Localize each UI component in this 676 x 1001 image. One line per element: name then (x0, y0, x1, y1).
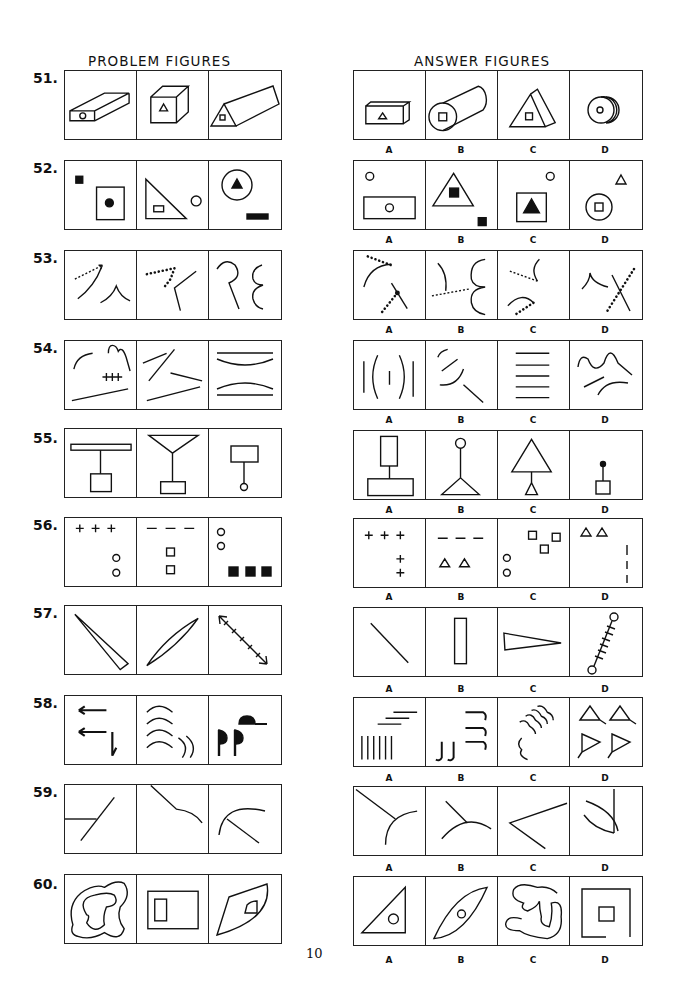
question-number: 55. (33, 430, 58, 446)
answer-figure-b[interactable] (426, 71, 498, 139)
answer-row-52 (353, 160, 643, 230)
problem-figure (65, 696, 137, 764)
problem-figure (65, 429, 137, 497)
answer-figure-a[interactable] (354, 71, 426, 139)
problem-row-57 (64, 605, 282, 675)
answer-figure-d[interactable] (570, 877, 642, 945)
answer-figure-c[interactable] (498, 877, 570, 945)
answer-figure-a[interactable] (354, 787, 426, 855)
answer-row-59 (353, 786, 643, 856)
question-number: 56. (33, 517, 58, 533)
problem-figure (209, 518, 281, 586)
question-number: 51. (33, 70, 58, 86)
problem-figure (209, 875, 281, 943)
answer-row-56 (353, 518, 643, 588)
question-number: 59. (33, 784, 58, 800)
answer-row-51 (353, 70, 643, 140)
answer-figure-d[interactable] (570, 608, 642, 676)
answer-figure-b[interactable] (426, 608, 498, 676)
answer-row-53 (353, 250, 643, 320)
answer-figure-d[interactable] (570, 519, 642, 587)
answer-figure-b[interactable] (426, 341, 498, 409)
answer-labels: ABCD (353, 955, 641, 965)
answer-figure-c[interactable] (498, 341, 570, 409)
problem-row-53 (64, 250, 282, 320)
answer-labels: ABCD (353, 415, 641, 425)
answer-row-58 (353, 697, 643, 767)
answer-labels: ABCD (353, 863, 641, 873)
problem-figure (137, 429, 209, 497)
problem-figure (137, 71, 209, 139)
answer-figure-c[interactable] (498, 787, 570, 855)
question-number: 52. (33, 160, 58, 176)
answer-figure-b[interactable] (426, 251, 498, 319)
answer-figure-b[interactable] (426, 698, 498, 766)
answer-figure-d[interactable] (570, 161, 642, 229)
problem-figure (137, 341, 209, 409)
answer-figure-a[interactable] (354, 519, 426, 587)
problem-figure (137, 606, 209, 674)
answer-figure-c[interactable] (498, 431, 570, 499)
question-number: 57. (33, 605, 58, 621)
answer-row-55 (353, 430, 643, 500)
problem-row-58 (64, 695, 282, 765)
answer-labels: ABCD (353, 773, 641, 783)
answer-figure-a[interactable] (354, 251, 426, 319)
problem-figure (209, 696, 281, 764)
answer-figure-c[interactable] (498, 251, 570, 319)
problem-row-51 (64, 70, 282, 140)
problem-row-54 (64, 340, 282, 410)
problem-figure (65, 71, 137, 139)
answer-labels: ABCD (353, 325, 641, 335)
answer-figure-b[interactable] (426, 161, 498, 229)
answer-labels: ABCD (353, 684, 641, 694)
answer-figure-b[interactable] (426, 877, 498, 945)
problem-figure (65, 606, 137, 674)
answer-figure-b[interactable] (426, 431, 498, 499)
answer-figure-d[interactable] (570, 71, 642, 139)
answer-figure-a[interactable] (354, 341, 426, 409)
answer-figure-c[interactable] (498, 519, 570, 587)
answer-figure-c[interactable] (498, 698, 570, 766)
problem-figure (65, 161, 137, 229)
answer-row-54 (353, 340, 643, 410)
problem-figure (65, 518, 137, 586)
problem-row-59 (64, 784, 282, 854)
question-number: 58. (33, 695, 58, 711)
problem-row-55 (64, 428, 282, 498)
answer-figures-header: ANSWER FIGURES (414, 53, 550, 69)
answer-figure-a[interactable] (354, 698, 426, 766)
answer-figure-c[interactable] (498, 161, 570, 229)
answer-figure-d[interactable] (570, 341, 642, 409)
answer-row-60 (353, 876, 643, 946)
answer-labels: ABCD (353, 592, 641, 602)
problem-figure (137, 875, 209, 943)
answer-labels: ABCD (353, 235, 641, 245)
question-number: 53. (33, 250, 58, 266)
answer-labels: ABCD (353, 505, 641, 515)
problem-row-56 (64, 517, 282, 587)
problem-figure (209, 785, 281, 853)
answer-figure-d[interactable] (570, 698, 642, 766)
answer-figure-d[interactable] (570, 431, 642, 499)
problem-figure (137, 518, 209, 586)
answer-figure-b[interactable] (426, 519, 498, 587)
answer-figure-c[interactable] (498, 608, 570, 676)
answer-figure-c[interactable] (498, 71, 570, 139)
answer-figure-b[interactable] (426, 787, 498, 855)
page-number: 10 (306, 946, 323, 961)
answer-figure-a[interactable] (354, 431, 426, 499)
answer-figure-a[interactable] (354, 608, 426, 676)
problem-row-52 (64, 160, 282, 230)
answer-figure-a[interactable] (354, 161, 426, 229)
answer-row-57 (353, 607, 643, 677)
answer-figure-d[interactable] (570, 787, 642, 855)
answer-figure-a[interactable] (354, 877, 426, 945)
problem-figure (65, 785, 137, 853)
problem-figure (137, 696, 209, 764)
question-number: 54. (33, 340, 58, 356)
problem-figure (209, 606, 281, 674)
problem-figure (65, 341, 137, 409)
answer-figure-d[interactable] (570, 251, 642, 319)
answer-labels: ABCD (353, 145, 641, 155)
